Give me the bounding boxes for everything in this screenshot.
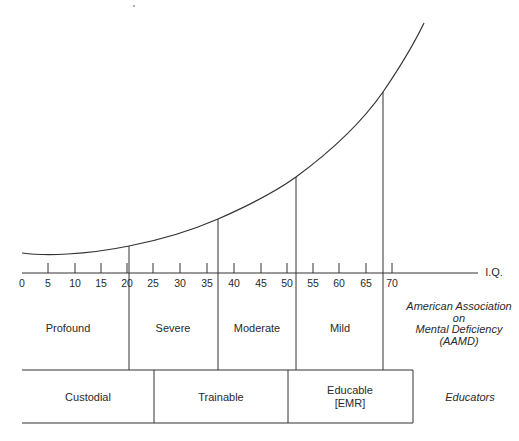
axis-ticks <box>48 263 392 273</box>
educators-educable: Educable [EMR] <box>327 384 373 410</box>
tick-label-5: 5 <box>45 277 51 289</box>
aamd-severe: Severe <box>156 322 191 335</box>
educators-title: Educators <box>445 391 495 404</box>
diagram-lines <box>0 0 519 441</box>
educators-custodial: Custodial <box>65 391 111 404</box>
educable-label: Educable <box>327 384 373 397</box>
tick-label-65: 65 <box>360 277 372 289</box>
tick-label-0: 0 <box>19 277 25 289</box>
tick-label-25: 25 <box>147 277 159 289</box>
aamd-title-line: (AAMD) <box>406 336 511 348</box>
tick-label-55: 55 <box>307 277 319 289</box>
tick-label-20: 20 <box>121 277 133 289</box>
tick-label-30: 30 <box>174 277 186 289</box>
tick-label-35: 35 <box>201 277 213 289</box>
axis-label-iq: I.Q. <box>485 266 503 279</box>
tick-label-45: 45 <box>255 277 267 289</box>
educators-trainable: Trainable <box>198 391 243 404</box>
tick-label-60: 60 <box>333 277 345 289</box>
tick-label-10: 10 <box>69 277 81 289</box>
tick-label-50: 50 <box>281 277 293 289</box>
aamd-title: American Association on Mental Deficienc… <box>406 301 511 347</box>
aamd-title-line: American Association <box>406 301 511 313</box>
aamd-profound: Profound <box>46 322 91 335</box>
tick-label-15: 15 <box>95 277 107 289</box>
aamd-mild: Mild <box>330 322 350 335</box>
tick-label-40: 40 <box>228 277 240 289</box>
aamd-moderate: Moderate <box>234 322 280 335</box>
tick-label-70: 70 <box>386 277 398 289</box>
emr-label: [EMR] <box>327 397 373 410</box>
aamd-title-line: Mental Deficiency <box>406 324 511 336</box>
distribution-curve <box>22 23 424 255</box>
